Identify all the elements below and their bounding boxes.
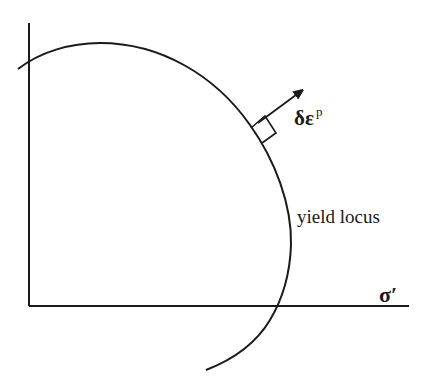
strain-increment-label: δεp <box>294 104 322 130</box>
yield-locus-label: yield locus <box>297 206 380 227</box>
yield-locus-diagram: δεp yield locus σ′ <box>0 0 429 387</box>
x-axis-label: σ′ <box>379 282 397 307</box>
yield-locus-curve <box>18 43 291 370</box>
